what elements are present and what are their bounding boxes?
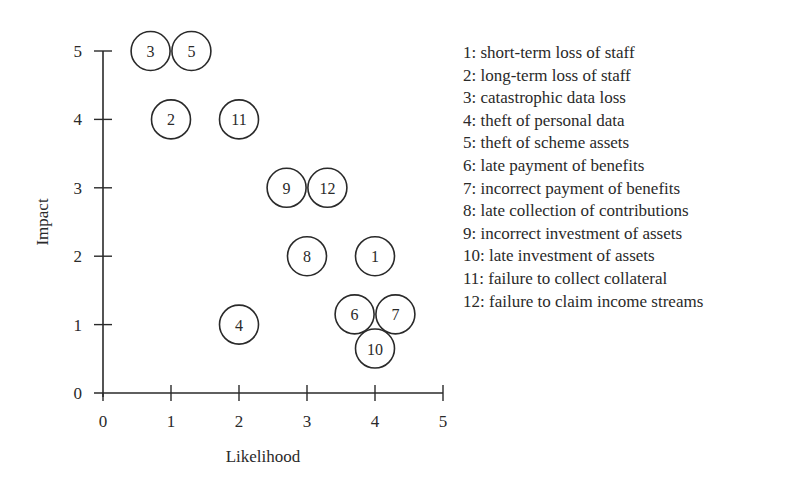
y-tick-label: 0 (74, 384, 83, 403)
legend-item: 7: incorrect payment of benefits (463, 178, 703, 201)
y-axis-title: Impact (33, 198, 52, 245)
y-tick-label: 1 (74, 316, 83, 335)
x-tick-label: 5 (439, 412, 448, 431)
x-ticks: 012345 (99, 385, 448, 431)
axes (94, 51, 443, 397)
legend-item: 11: failure to collect collateral (463, 268, 703, 291)
point-label: 1 (371, 248, 379, 265)
point-label: 3 (147, 43, 155, 60)
point-label: 6 (351, 306, 359, 323)
x-tick-label: 4 (371, 412, 380, 431)
x-tick-label: 0 (99, 412, 108, 431)
point-label: 11 (231, 111, 246, 128)
legend-item: 8: late collection of contributions (463, 200, 703, 223)
risk-point-11: 11 (220, 100, 259, 139)
legend-item: 4: theft of personal data (463, 110, 703, 133)
risk-point-5: 5 (172, 32, 211, 71)
legend: 1: short-term loss of staff2: long-term … (463, 42, 703, 313)
x-axis-title: Likelihood (226, 447, 301, 466)
x-tick-label: 1 (167, 412, 176, 431)
risk-point-4: 4 (220, 305, 259, 344)
point-label: 7 (391, 306, 399, 323)
point-label: 12 (319, 180, 335, 197)
point-label: 4 (235, 317, 243, 334)
risk-point-7: 7 (376, 295, 415, 334)
risk-point-9: 9 (267, 168, 306, 207)
y-tick-label: 4 (74, 110, 83, 129)
legend-item: 5: theft of scheme assets (463, 132, 703, 155)
point-label: 10 (367, 341, 383, 358)
risk-point-8: 8 (288, 237, 327, 276)
legend-item: 9: incorrect investment of assets (463, 223, 703, 246)
point-label: 9 (283, 180, 291, 197)
x-tick-label: 3 (303, 412, 312, 431)
y-tick-label: 3 (74, 179, 83, 198)
legend-item: 6: late payment of benefits (463, 155, 703, 178)
y-ticks: 012345 (74, 42, 113, 403)
y-tick-label: 5 (74, 42, 83, 61)
risk-point-6: 6 (335, 295, 374, 334)
point-label: 8 (303, 248, 311, 265)
risk-point-10: 10 (356, 329, 395, 368)
legend-item: 12: failure to claim income streams (463, 291, 703, 314)
data-points: 123456789101112 (131, 32, 415, 369)
legend-item: 10: late investment of assets (463, 245, 703, 268)
point-label: 5 (187, 43, 195, 60)
risk-point-1: 1 (356, 237, 395, 276)
y-tick-label: 2 (74, 247, 83, 266)
risk-point-2: 2 (152, 100, 191, 139)
legend-item: 2: long-term loss of staff (463, 65, 703, 88)
legend-item: 1: short-term loss of staff (463, 42, 703, 65)
x-tick-label: 2 (235, 412, 244, 431)
legend-item: 3: catastrophic data loss (463, 87, 703, 110)
point-label: 2 (167, 111, 175, 128)
risk-point-12: 12 (308, 168, 347, 207)
risk-point-3: 3 (131, 32, 170, 71)
